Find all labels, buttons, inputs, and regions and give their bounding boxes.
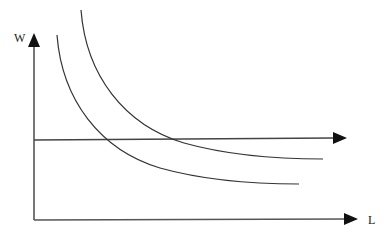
curve-lower <box>57 35 299 184</box>
wage-line <box>34 138 334 140</box>
diagram-canvas: W L <box>0 0 392 235</box>
wage-line-arrow-icon <box>333 132 347 144</box>
curve-upper <box>81 10 323 159</box>
x-axis-arrow-icon <box>344 213 358 225</box>
y-axis-label: W <box>14 31 26 45</box>
y-axis-arrow-icon <box>28 33 40 47</box>
x-axis-label: L <box>368 213 375 227</box>
x-axis <box>34 219 346 220</box>
